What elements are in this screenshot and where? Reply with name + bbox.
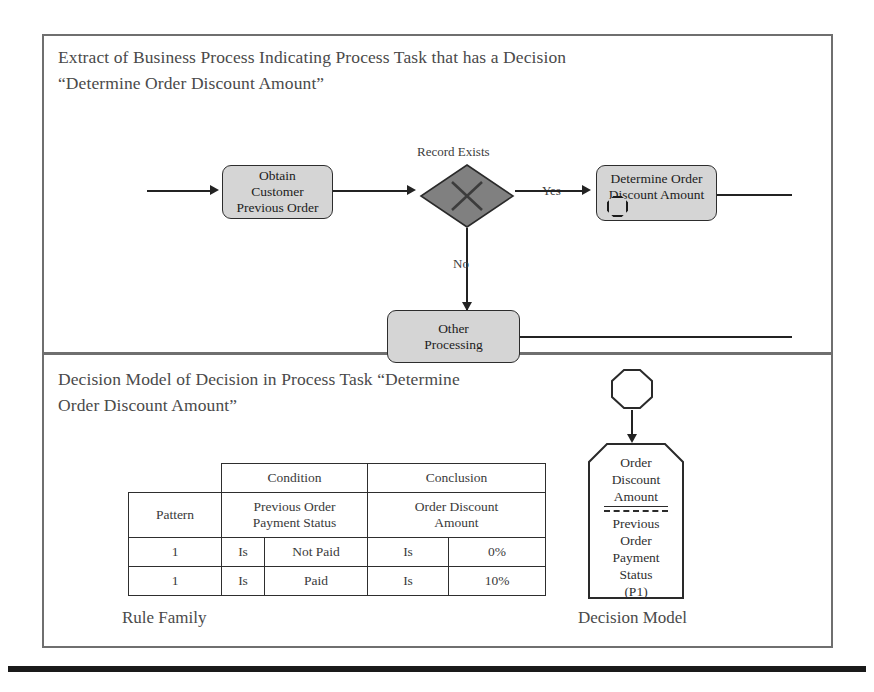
figure-page: Extract of Business Process Indicating P… xyxy=(0,0,874,692)
cell-condition-operator: Is xyxy=(222,567,265,596)
cell-conclusion-value: 0% xyxy=(449,538,546,567)
decision-octagon-icon xyxy=(607,196,628,217)
caption-rule-family: Rule Family xyxy=(122,608,207,628)
decision-model-connector-line xyxy=(631,410,633,437)
flow-connector-other-out xyxy=(520,336,792,338)
flow-arrowhead-into-determine xyxy=(582,185,591,195)
table-column-header-row: Pattern Previous Order Payment Status Or… xyxy=(129,493,546,538)
table-row: 1 Is Not Paid Is 0% xyxy=(129,538,546,567)
decision-model-separator xyxy=(604,506,668,512)
cell-conclusion-operator: Is xyxy=(368,538,449,567)
flow-connector-start xyxy=(147,190,211,192)
cell-condition-value: Not Paid xyxy=(265,538,368,567)
decision-model-diagram: Order Discount Amount Previous Order Pay… xyxy=(583,368,695,600)
flow-connector-obtain-to-gateway xyxy=(333,190,408,192)
flow-label-no: No xyxy=(453,256,469,272)
cell-pattern: 1 xyxy=(129,567,222,596)
task-other-processing[interactable]: Other Processing xyxy=(387,310,520,363)
flow-arrowhead-into-gateway xyxy=(407,185,416,195)
table-header-condition: Condition xyxy=(222,464,368,493)
flow-connector-determine-out xyxy=(717,194,792,196)
cell-condition-operator: Is xyxy=(222,538,265,567)
table-header-order-discount-amount: Order Discount Amount xyxy=(368,493,546,538)
gateway-label-record-exists: Record Exists xyxy=(417,144,490,160)
cell-pattern: 1 xyxy=(129,538,222,567)
bottom-panel-title: Decision Model of Decision in Process Ta… xyxy=(58,366,578,418)
caption-decision-model: Decision Model xyxy=(578,608,687,628)
flow-arrowhead-into-obtain xyxy=(210,185,219,195)
cell-conclusion-value: 10% xyxy=(449,567,546,596)
table-row: 1 Is Paid Is 10% xyxy=(129,567,546,596)
flow-connector-yes xyxy=(515,190,583,192)
table-header-previous-order-payment-status: Previous Order Payment Status xyxy=(222,493,368,538)
table-blank-corner xyxy=(129,464,222,493)
decision-model-conclusion-text: Order Discount Amount xyxy=(587,454,685,505)
task-obtain-customer-previous-order[interactable]: Obtain Customer Previous Order xyxy=(222,165,333,219)
decision-model-condition-text: Previous Order Payment Status (P1) xyxy=(587,515,685,600)
task-determine-order-discount-amount[interactable]: Determine Order Discount Amount xyxy=(596,165,717,221)
table-header-pattern: Pattern xyxy=(129,493,222,538)
bottom-horizontal-rule xyxy=(8,666,866,672)
table-header-conclusion: Conclusion xyxy=(368,464,546,493)
exclusive-gateway-record-exists[interactable] xyxy=(419,163,515,229)
rule-family-table: Condition Conclusion Pattern Previous Or… xyxy=(128,463,546,596)
decision-model-tag-content: Order Discount Amount Previous Order Pay… xyxy=(587,442,685,600)
cell-conclusion-operator: Is xyxy=(368,567,449,596)
table-group-header-row: Condition Conclusion xyxy=(129,464,546,493)
cell-condition-value: Paid xyxy=(265,567,368,596)
decision-octagon-icon xyxy=(610,368,654,410)
process-flow-diagram: Obtain Customer Previous Order Record Ex… xyxy=(42,34,833,352)
